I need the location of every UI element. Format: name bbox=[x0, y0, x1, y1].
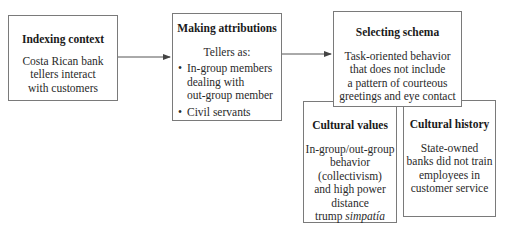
selecting-schema-text: Task-oriented behavior that does not inc… bbox=[334, 50, 461, 104]
text-line: a pattern of courteous bbox=[334, 77, 461, 91]
text-line: In-group members bbox=[187, 62, 281, 76]
making-attributions-title: Making attributions bbox=[173, 22, 281, 36]
italic-term: simpatía bbox=[345, 210, 385, 222]
text-line: Task-oriented behavior bbox=[334, 50, 461, 64]
text-line: tellers interact bbox=[9, 68, 117, 82]
text-line: distance bbox=[304, 197, 396, 211]
text-line: (collectivism) bbox=[304, 170, 396, 184]
text-segment: trump bbox=[315, 210, 345, 222]
indexing-context-title: Indexing context bbox=[9, 33, 117, 47]
making-attributions-box: Making attributions Tellers as: In-group… bbox=[172, 13, 282, 121]
bullet-item: In-group members dealing with out-group … bbox=[177, 62, 281, 103]
text-line: that does not include bbox=[334, 63, 461, 77]
text-line: Costa Rican bank bbox=[9, 55, 117, 69]
cultural-values-text: In-group/out-group behavior (collectivis… bbox=[304, 143, 396, 224]
text-line: out-group member bbox=[187, 89, 281, 103]
text-line: and high power bbox=[304, 183, 396, 197]
selecting-schema-box: Selecting schema Task-oriented behavior … bbox=[333, 11, 462, 107]
text-line: behavior bbox=[304, 156, 396, 170]
text-line: State-owned bbox=[404, 142, 495, 156]
cultural-history-text: State-owned banks did not train employee… bbox=[404, 142, 495, 196]
cultural-values-title: Cultural values bbox=[304, 119, 396, 133]
attributions-bullet-list: In-group members dealing with out-group … bbox=[173, 62, 281, 119]
cultural-history-box: Cultural history State-owned banks did n… bbox=[403, 100, 496, 217]
text-line: trump simpatía bbox=[304, 210, 396, 224]
text-line: employees in bbox=[404, 169, 495, 183]
text-line: customer service bbox=[404, 182, 495, 196]
indexing-context-text: Costa Rican bank tellers interact with c… bbox=[9, 55, 117, 96]
text-line: Civil servants bbox=[187, 106, 281, 120]
cultural-values-box: Cultural values In-group/out-group behav… bbox=[303, 101, 397, 223]
making-attributions-intro: Tellers as: bbox=[173, 46, 281, 60]
indexing-context-box: Indexing context Costa Rican bank teller… bbox=[8, 15, 118, 101]
text-line: with customers bbox=[9, 82, 117, 96]
text-line: In-group/out-group bbox=[304, 143, 396, 157]
cultural-history-title: Cultural history bbox=[404, 118, 495, 132]
text-line: greetings and eye contact bbox=[334, 90, 461, 104]
text-line: banks did not train bbox=[404, 155, 495, 169]
selecting-schema-title: Selecting schema bbox=[334, 26, 461, 40]
bullet-item: Civil servants bbox=[177, 106, 281, 120]
text-line: dealing with bbox=[187, 76, 281, 90]
